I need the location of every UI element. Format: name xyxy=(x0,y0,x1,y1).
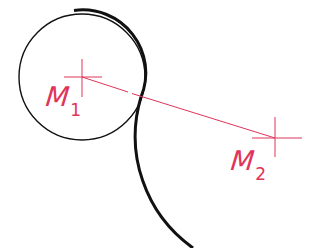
center-line-segment-2 xyxy=(132,94,275,139)
thick-arc-m2 xyxy=(135,97,193,248)
label-m2: M2 xyxy=(231,147,266,174)
thick-arc-m1 xyxy=(74,10,146,97)
diagram-canvas xyxy=(0,0,314,248)
label-m1: M1 xyxy=(46,83,81,110)
center-line-segment-1 xyxy=(82,77,128,92)
label-m2-main: M xyxy=(230,147,255,174)
label-m1-sub: 1 xyxy=(70,100,81,120)
label-m1-main: M xyxy=(45,83,70,110)
label-m2-sub: 2 xyxy=(255,164,266,184)
